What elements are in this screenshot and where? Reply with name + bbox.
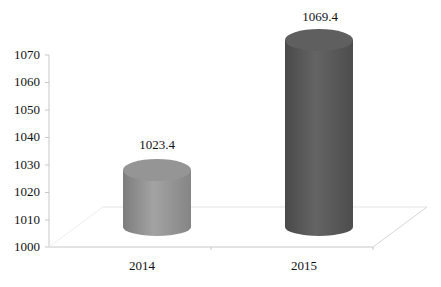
bar-chart: 1070 1060 1050 1040 1030 1020 1010 1000 … [0,0,441,287]
data-label-2014: 1023.4 [122,138,192,152]
bar-2014 [123,159,191,236]
y-axis-ticks [45,55,49,247]
y-tick-label: 1050 [2,103,40,117]
floor-left-edge [49,207,103,247]
x-tick-label-2014: 2014 [112,259,172,273]
x-tick-label-2015: 2015 [274,259,334,273]
chart-plot-area [0,0,441,287]
data-label-2015: 1069.4 [285,10,355,24]
y-tick-label: 1000 [2,240,40,254]
y-tick-label: 1070 [2,48,40,62]
floor-right-edge [373,207,427,247]
y-tick-label: 1060 [2,75,40,89]
y-tick-label: 1020 [2,185,40,199]
y-tick-label: 1040 [2,130,40,144]
y-tick-label: 1010 [2,213,40,227]
bar-2015 [285,29,353,236]
y-tick-label: 1030 [2,158,40,172]
